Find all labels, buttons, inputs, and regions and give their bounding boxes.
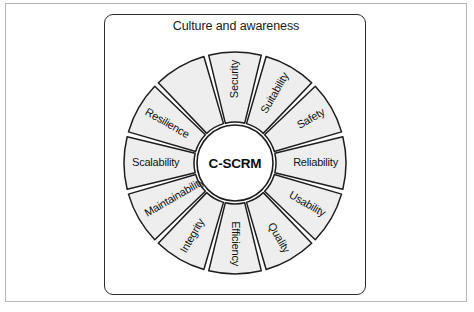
diagram-canvas: Culture and awareness SecuritySuitabilit… — [0, 0, 474, 312]
wheel-segment-label: Reliability — [293, 156, 339, 168]
wheel-segment-label: Efficiency — [230, 221, 242, 267]
wheel-segment-label: Security — [228, 59, 240, 98]
hub-label: C-SCRM — [209, 156, 262, 171]
c-scrm-wheel: SecuritySuitabilitySafetyReliabilityUsab… — [0, 0, 474, 312]
wheel-segment-label: Scalability — [132, 156, 180, 168]
wheel-container: SecuritySuitabilitySafetyReliabilityUsab… — [0, 0, 474, 312]
